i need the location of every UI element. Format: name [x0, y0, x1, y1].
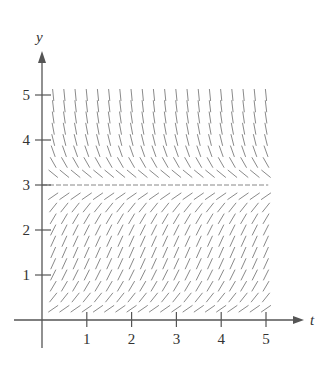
slope-segment [219, 225, 224, 236]
y-tick-label: 1 [23, 267, 31, 283]
slope-segment [243, 100, 244, 112]
slope-segment [243, 89, 244, 101]
slope-segment [241, 225, 246, 236]
slope-segment [95, 270, 100, 281]
slope-segment [127, 193, 137, 200]
slope-segment [153, 89, 154, 101]
slope-segment [186, 146, 190, 157]
slope-segment [96, 247, 101, 258]
slope-segment [207, 270, 212, 281]
slope-segment [150, 293, 157, 302]
slope-segment [172, 170, 181, 178]
slope-segment [74, 134, 77, 146]
slope-segment [83, 293, 90, 302]
slope-segment [119, 134, 122, 146]
slope-segment [261, 193, 271, 200]
slope-segment [263, 270, 268, 281]
slope-segment [50, 157, 56, 167]
slope-segment [73, 281, 79, 291]
slope-segment [197, 134, 200, 146]
slope-segment [107, 225, 112, 236]
slope-segment [220, 100, 221, 112]
slope-segment [140, 258, 145, 269]
slope-segment [218, 214, 224, 224]
slope-segment [129, 247, 134, 258]
slope-segment [129, 225, 134, 236]
slope-segment [230, 247, 235, 258]
slope-segment [208, 236, 213, 247]
slope-segment [164, 112, 166, 124]
slope-segment [207, 225, 212, 236]
slope-segment [62, 247, 67, 258]
slope-segment [185, 247, 190, 258]
slope-segment [140, 236, 145, 247]
slope-segment [207, 157, 213, 167]
slope-segment [196, 247, 201, 258]
slope-segment [216, 305, 226, 312]
slope-segment [119, 123, 121, 135]
slope-segment [174, 146, 178, 157]
slope-segment [141, 146, 145, 157]
y-tick-label: 2 [23, 222, 31, 238]
slope-segment [185, 157, 191, 167]
slope-segment [220, 123, 222, 135]
slope-segment [75, 100, 76, 112]
slope-segment [254, 100, 255, 112]
slope-segment [61, 157, 67, 167]
slope-segment [118, 270, 123, 281]
slope-segment [106, 157, 112, 167]
slope-segment [152, 258, 157, 269]
slope-segment [128, 203, 135, 212]
slope-segment [108, 112, 110, 124]
y-axis-label: y [34, 29, 43, 45]
slope-segment [63, 123, 65, 135]
slope-segment [107, 270, 112, 281]
slope-segment [187, 89, 188, 101]
slope-segment [75, 89, 76, 101]
slope-segment [151, 157, 157, 167]
slope-segment [229, 281, 235, 291]
slope-segment [104, 305, 114, 312]
slope-segment [109, 89, 110, 101]
slope-segment [262, 203, 269, 212]
slope-segment [73, 258, 78, 269]
slope-segment [149, 193, 159, 200]
slope-segment [250, 170, 259, 178]
x-tick-label: 1 [83, 331, 91, 347]
slope-segment [93, 170, 102, 178]
slope-segment [95, 281, 101, 291]
slope-segment [84, 236, 89, 247]
slope-segment [130, 146, 134, 157]
slope-segment [229, 203, 236, 212]
slope-segment [164, 134, 167, 146]
slope-segment [82, 193, 92, 200]
slope-segment [74, 123, 76, 135]
slope-segment [73, 214, 79, 224]
slope-segment [252, 270, 257, 281]
slope-segment [117, 281, 123, 291]
slope-segment [239, 305, 249, 312]
slope-segment [196, 157, 202, 167]
slope-segment [196, 214, 202, 224]
slope-segment [241, 270, 246, 281]
slope-segment [165, 89, 166, 101]
slope-segment [176, 100, 177, 112]
slope-segment [241, 236, 246, 247]
slope-segment [160, 305, 170, 312]
slope-segment [194, 193, 204, 200]
slope-segment [254, 123, 256, 135]
slope-segment [96, 146, 100, 157]
slope-segment [152, 236, 157, 247]
x-tick-label: 3 [173, 331, 181, 347]
slope-segment [205, 170, 214, 178]
slope-segment [71, 170, 80, 178]
slope-segment [216, 193, 226, 200]
slope-segment [250, 305, 260, 312]
slope-segment [95, 214, 101, 224]
slope-segment [252, 281, 258, 291]
slope-segment [174, 247, 179, 258]
slope-segment [242, 134, 245, 146]
slope-segment [163, 247, 168, 258]
slope-segment [62, 236, 67, 247]
slope-segment [171, 305, 181, 312]
